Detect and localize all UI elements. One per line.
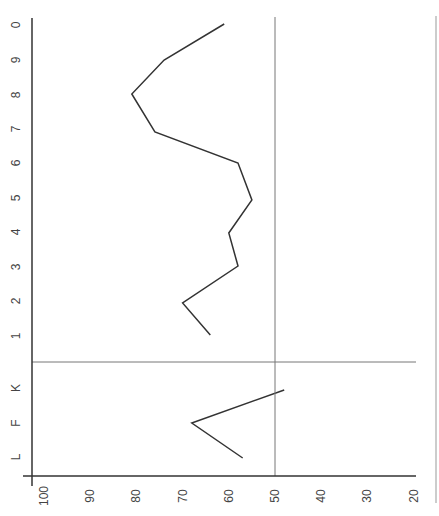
axes xyxy=(23,16,436,503)
value-tick-label: 30 xyxy=(360,489,374,503)
value-tick-label: 90 xyxy=(83,489,97,503)
data-line-segment-letters xyxy=(192,390,284,458)
tick-labels: 0987654321KFL1009080706050403020 xyxy=(9,21,421,506)
value-tick-label: 80 xyxy=(129,489,143,503)
category-tick-label: 3 xyxy=(9,263,23,270)
category-tick-label: 5 xyxy=(9,194,23,201)
value-tick-label: 50 xyxy=(268,489,282,503)
category-tick-label: 2 xyxy=(9,297,23,304)
value-tick-label: 70 xyxy=(176,489,190,503)
category-tick-label: F xyxy=(9,419,23,426)
category-tick-label: 0 xyxy=(9,21,23,28)
value-tick-label: 60 xyxy=(222,489,236,503)
plot-area xyxy=(132,24,284,458)
category-tick-label: L xyxy=(9,453,23,460)
category-tick-label: 7 xyxy=(9,125,23,132)
value-tick-label: 100 xyxy=(37,486,51,506)
category-tick-label: K xyxy=(9,384,23,392)
line-chart: 0987654321KFL1009080706050403020 xyxy=(0,0,439,516)
category-tick-label: 9 xyxy=(9,56,23,63)
value-tick-label: 20 xyxy=(407,489,421,503)
data-line-segment-digits xyxy=(132,24,252,335)
category-tick-label: 6 xyxy=(9,159,23,166)
category-tick-label: 8 xyxy=(9,91,23,98)
category-tick-label: 4 xyxy=(9,228,23,235)
category-tick-label: 1 xyxy=(9,332,23,339)
value-tick-label: 40 xyxy=(314,489,328,503)
